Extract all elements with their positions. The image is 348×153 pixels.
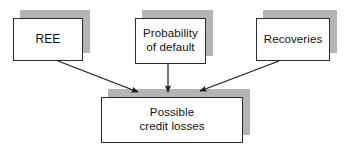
node-possible-credit-losses-box[interactable]: Possible credit losses [101, 97, 243, 143]
node-probability-of-default-box[interactable]: Probability of default [135, 18, 206, 64]
node-possible-credit-losses-label: Possible credit losses [139, 106, 204, 133]
node-ree-label: REE [36, 32, 61, 46]
edge-ree-to-losses [58, 61, 138, 92]
node-recoveries-box[interactable]: Recoveries [256, 18, 330, 61]
edge-recoveries-to-losses [200, 61, 279, 91]
diagram-canvas: REE Probability of default Recoveries Po… [0, 0, 348, 153]
node-recoveries-label: Recoveries [264, 33, 323, 47]
node-probability-of-default-label: Probability of default [143, 27, 198, 54]
node-ree-box[interactable]: REE [13, 18, 83, 61]
